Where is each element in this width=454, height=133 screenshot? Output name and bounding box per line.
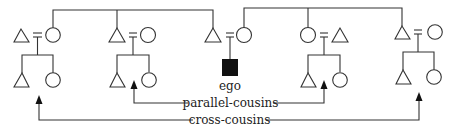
male-triangle-icon [110,73,125,87]
female-circle-icon [46,73,61,88]
female-circle-icon [46,28,61,43]
male-triangle-icon [109,28,125,42]
arrow-up-icon [321,80,328,89]
ego-label: ego [219,79,241,93]
arrow-up-icon [36,95,43,104]
arrow-up-icon [416,92,423,101]
father-sibling-line [53,10,213,29]
female-circle-icon [237,28,252,43]
family-5 [395,25,442,85]
male-triangle-icon [205,28,221,42]
male-triangle-icon [301,73,316,87]
parallel-cousins-label: parallel-cousins [183,96,279,110]
kinship-diagram: ego parallel-cousins cross-cousins [0,0,454,133]
female-circle-icon [333,73,348,88]
family-1 [14,28,60,88]
family-2 [109,28,156,88]
cross-cousins-label: cross-cousins [189,113,271,127]
female-circle-icon [301,28,316,43]
male-triangle-icon [14,73,29,87]
female-circle-icon [428,25,443,40]
male-triangle-icon [14,29,29,42]
mother-sibling-line [244,8,402,28]
family-4 [301,28,349,88]
arrow-up-icon [131,80,138,89]
ego-square-icon [222,59,238,76]
family-ego: ego [205,28,252,94]
male-triangle-icon [395,26,410,39]
male-triangle-icon [396,70,411,84]
female-circle-icon [142,73,157,88]
male-triangle-icon [332,28,348,42]
female-circle-icon [141,28,156,43]
female-circle-icon [427,70,442,85]
